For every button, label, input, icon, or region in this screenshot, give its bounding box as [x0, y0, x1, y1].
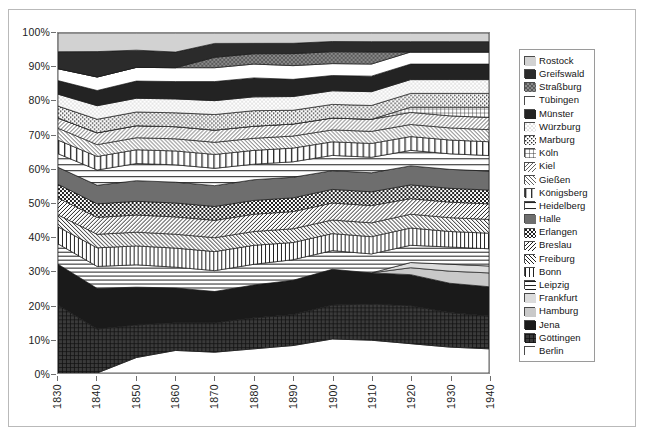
y-tick-mark: [51, 169, 56, 170]
legend-swatch-icon: [524, 148, 535, 157]
legend-swatch-icon: [524, 122, 535, 131]
x-tick-label: 1940: [484, 384, 496, 409]
legend-item-label: Frankfurt: [539, 293, 577, 303]
legend-swatch-icon: [524, 82, 535, 91]
x-tick-mark: [96, 376, 97, 381]
legend-swatch-icon: [524, 214, 535, 223]
x-tick-mark: [293, 376, 294, 381]
legend-swatch-icon: [524, 135, 535, 144]
chart-legend: RostockGreifswaldStraßburgTübingenMünste…: [519, 49, 595, 362]
legend-item[interactable]: Breslau: [524, 239, 591, 252]
legend-item-label: Göttingen: [539, 333, 581, 343]
legend-item[interactable]: Rostock: [524, 54, 591, 67]
y-tick-mark: [51, 306, 56, 307]
x-tick-label: 1880: [248, 384, 260, 409]
legend-item[interactable]: Königsberg: [524, 186, 591, 199]
x-tick-mark: [57, 376, 58, 381]
legend-item[interactable]: Göttingen: [524, 331, 591, 344]
legend-item[interactable]: Bonn: [524, 265, 591, 278]
legend-item-label: Berlin: [539, 346, 564, 356]
x-axis: 1830184018501860187018801890190019101920…: [57, 376, 490, 436]
legend-item-label: Heidelberg: [539, 201, 585, 211]
x-tick-mark: [254, 376, 255, 381]
legend-item-label: Hamburg: [539, 306, 578, 316]
legend-item-label: Breslau: [539, 240, 572, 250]
legend-swatch-icon: [524, 267, 535, 276]
x-tick-mark: [214, 376, 215, 381]
legend-item[interactable]: Hamburg: [524, 305, 591, 318]
legend-item[interactable]: Münster: [524, 107, 591, 120]
legend-item[interactable]: Freiburg: [524, 252, 591, 265]
legend-swatch-icon: [524, 307, 535, 316]
legend-item-label: Tübingen: [539, 95, 579, 105]
x-tick-label: 1840: [90, 384, 102, 409]
legend-item-label: Gießen: [539, 175, 570, 185]
plot-frame: BerlinGöttingenJenaHamburgFrankfurtLeipz…: [57, 32, 490, 374]
legend-swatch-icon: [524, 346, 535, 355]
legend-item-label: Jena: [539, 320, 560, 330]
y-tick-mark: [51, 100, 56, 101]
x-tick-mark: [136, 376, 137, 381]
legend-item[interactable]: Heidelberg: [524, 199, 591, 212]
legend-item[interactable]: Straßburg: [524, 80, 591, 93]
x-tick-mark: [372, 376, 373, 381]
legend-item[interactable]: Berlin: [524, 344, 591, 357]
x-tick-label: 1900: [327, 384, 339, 409]
x-tick-label: 1890: [287, 384, 299, 409]
legend-swatch-icon: [524, 280, 535, 289]
y-tick-mark: [51, 32, 56, 33]
x-tick-label: 1830: [51, 384, 63, 409]
legend-item[interactable]: Köln: [524, 146, 591, 159]
legend-item-label: Leipzig: [539, 280, 569, 290]
y-tick-mark: [51, 66, 56, 67]
legend-item-label: Rostock: [539, 56, 574, 66]
legend-item-label: Bonn: [539, 267, 561, 277]
legend-swatch-icon: [524, 254, 535, 263]
legend-swatch-icon: [524, 56, 535, 65]
legend-swatch-icon: [524, 228, 535, 237]
y-tick-mark: [51, 237, 56, 238]
legend-swatch-icon: [524, 188, 535, 197]
chart-page: 0%10%20%30%40%50%60%70%80%90%100% Berlin…: [0, 0, 645, 438]
legend-item[interactable]: Erlangen: [524, 225, 591, 238]
legend-item-label: Freiburg: [539, 254, 575, 264]
x-tick-label: 1920: [405, 384, 417, 409]
x-tick-mark: [411, 376, 412, 381]
legend-item[interactable]: Jena: [524, 318, 591, 331]
legend-item[interactable]: Frankfurt: [524, 291, 591, 304]
legend-item[interactable]: Leipzig: [524, 278, 591, 291]
plot-area: BerlinGöttingenJenaHamburgFrankfurtLeipz…: [57, 32, 490, 374]
legend-item-label: Marburg: [539, 135, 575, 145]
legend-swatch-icon: [524, 162, 535, 171]
y-axis-ticks: [0, 32, 57, 374]
legend-item[interactable]: Halle: [524, 212, 591, 225]
legend-swatch-icon: [524, 241, 535, 250]
area-series-group: BerlinGöttingenJenaHamburgFrankfurtLeipz…: [58, 33, 489, 373]
legend-item[interactable]: Tübingen: [524, 94, 591, 107]
legend-item[interactable]: Marburg: [524, 133, 591, 146]
x-tick-label: 1910: [366, 384, 378, 409]
legend-item-label: Halle: [539, 214, 561, 224]
legend-item[interactable]: Gießen: [524, 173, 591, 186]
legend-swatch-icon: [524, 201, 535, 210]
x-tick-mark: [451, 376, 452, 381]
x-tick-mark: [175, 376, 176, 381]
x-tick-label: 1930: [445, 384, 457, 409]
x-tick-mark: [333, 376, 334, 381]
y-tick-mark: [51, 135, 56, 136]
legend-swatch-icon: [524, 293, 535, 302]
x-tick-mark: [490, 376, 491, 381]
x-tick-label: 1860: [169, 384, 181, 409]
legend-item[interactable]: Würzburg: [524, 120, 591, 133]
legend-swatch-icon: [524, 69, 535, 78]
legend-swatch-icon: [524, 96, 535, 105]
legend-item-label: Kiel: [539, 161, 555, 171]
stacked-area-chart: BerlinGöttingenJenaHamburgFrankfurtLeipz…: [58, 33, 489, 373]
legend-item-label: Erlangen: [539, 227, 577, 237]
legend-item-label: Münster: [539, 109, 574, 119]
x-tick-label: 1870: [208, 384, 220, 409]
legend-item-label: Königsberg: [539, 188, 588, 198]
legend-item[interactable]: Kiel: [524, 160, 591, 173]
legend-item[interactable]: Greifswald: [524, 67, 591, 80]
legend-item-label: Würzburg: [539, 122, 581, 132]
